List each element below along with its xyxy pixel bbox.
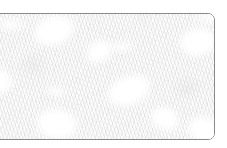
page-viewport (0, 0, 227, 148)
texture-surface (0, 14, 214, 139)
highlight-top-right (184, 30, 213, 52)
highlight-lower-mid (154, 110, 175, 127)
texture-panel (0, 13, 215, 140)
highlight-center-right (109, 75, 148, 105)
highlight-bottom-left (40, 112, 72, 136)
highlight-left-edge (0, 69, 8, 91)
highlight-top-left (37, 17, 71, 44)
highlight-bottom-right (191, 119, 215, 140)
highlight-upper-mid (90, 43, 109, 61)
texture-highlight-layer (0, 14, 214, 139)
